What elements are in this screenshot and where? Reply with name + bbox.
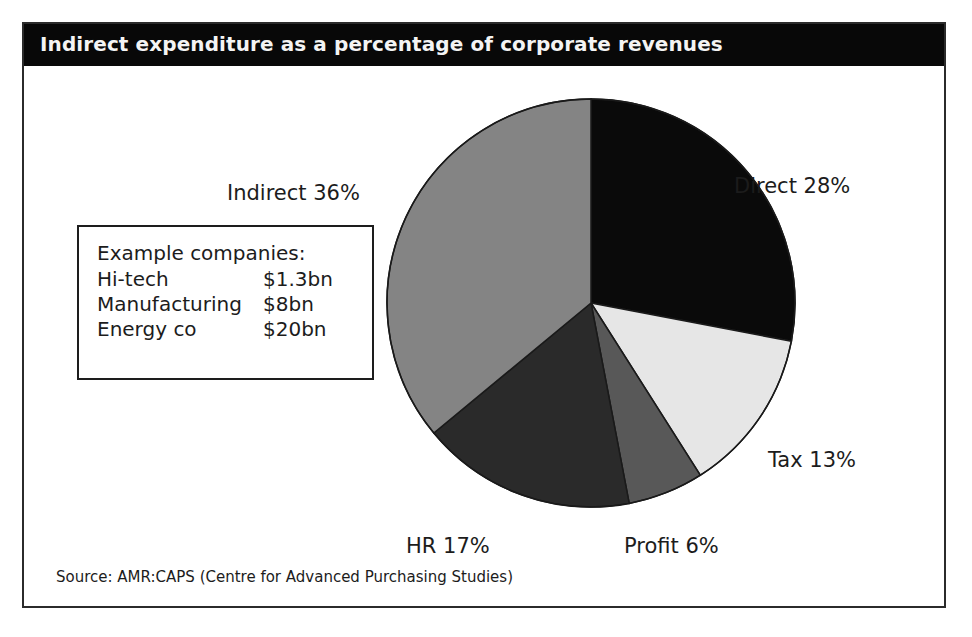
page-title: Indirect expenditure as a percentage of … xyxy=(40,32,723,56)
figure-root: Indirect expenditure as a percentage of … xyxy=(0,0,972,637)
plot-area: Indirect 36% Direct 28% Tax 13% HR 17% P… xyxy=(24,66,944,606)
example-companies-content: Example companies: Hi-tech $1.3bn Manufa… xyxy=(97,241,359,341)
title-banner: Indirect expenditure as a percentage of … xyxy=(24,24,944,66)
example-company-value: $8bn xyxy=(263,292,314,316)
pie-chart-svg xyxy=(385,97,797,509)
pie-label-profit: Profit 6% xyxy=(624,534,719,558)
example-row: Energy co $20bn xyxy=(97,317,359,341)
pie-chart xyxy=(385,97,797,509)
example-company-name: Manufacturing xyxy=(97,292,263,316)
example-company-name: Hi-tech xyxy=(97,267,263,291)
example-row: Hi-tech $1.3bn xyxy=(97,267,359,291)
example-companies-heading: Example companies: xyxy=(97,241,359,265)
pie-label-tax: Tax 13% xyxy=(768,448,856,472)
example-company-value: $20bn xyxy=(263,317,327,341)
pie-slice-direct xyxy=(591,99,795,341)
example-row: Manufacturing $8bn xyxy=(97,292,359,316)
example-company-name: Energy co xyxy=(97,317,263,341)
figure-frame: Indirect expenditure as a percentage of … xyxy=(22,22,946,608)
example-company-value: $1.3bn xyxy=(263,267,333,291)
pie-label-indirect: Indirect 36% xyxy=(227,181,360,205)
source-note: Source: AMR:CAPS (Centre for Advanced Pu… xyxy=(56,568,513,586)
pie-label-hr: HR 17% xyxy=(406,534,490,558)
pie-label-direct: Direct 28% xyxy=(734,174,850,198)
example-companies-box: Example companies: Hi-tech $1.3bn Manufa… xyxy=(77,225,374,380)
